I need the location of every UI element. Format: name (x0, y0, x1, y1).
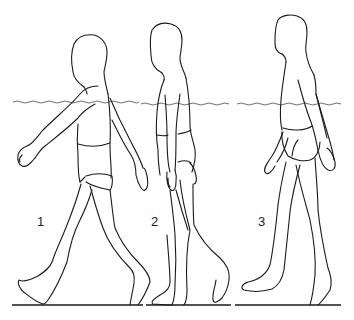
figure-2-rear-leg (152, 180, 190, 305)
figure-1-shorts (78, 143, 112, 190)
figure-3-label: 3 (258, 214, 265, 229)
figure-2: 2 (150, 23, 229, 305)
figure-2-front-leg (176, 184, 229, 302)
water-line-2 (141, 103, 229, 105)
figure-2-arm (165, 94, 180, 172)
figure-3-front (280, 62, 286, 130)
figure-3-front-leg (296, 158, 331, 305)
figure-3-head (275, 15, 314, 75)
figure-1-head (72, 35, 108, 94)
figure-1: 1 (18, 35, 150, 305)
water-line-3 (237, 103, 341, 105)
figure-3-rear-leg (242, 162, 300, 291)
figure-2-hand (167, 170, 177, 191)
walking-figures-illustration: 1 2 3 (0, 0, 354, 320)
figure-1-arm-upper (29, 86, 98, 145)
figure-1-front-leg (90, 186, 150, 305)
figure-1-rear-leg (18, 184, 92, 304)
figure-1-back (108, 94, 111, 178)
figure-2-neck-front (162, 73, 164, 80)
figure-3-neck-front (282, 54, 286, 62)
figure-2-head (150, 23, 186, 78)
figure-1-label: 1 (37, 214, 44, 229)
figure-2-label: 2 (151, 214, 158, 229)
figure-2-front (156, 80, 164, 175)
figure-1-hand (18, 145, 35, 167)
figure-3: 3 (242, 15, 335, 305)
figure-2-shorts (157, 130, 191, 163)
water-surface (13, 101, 341, 105)
figure-1-arm-lower (35, 104, 95, 158)
figure-1-back-arm (110, 98, 148, 190)
water-line-1 (13, 101, 139, 103)
figure-3-arm (298, 80, 327, 150)
figure-1-front (77, 124, 80, 182)
figure-2-back (186, 78, 195, 172)
